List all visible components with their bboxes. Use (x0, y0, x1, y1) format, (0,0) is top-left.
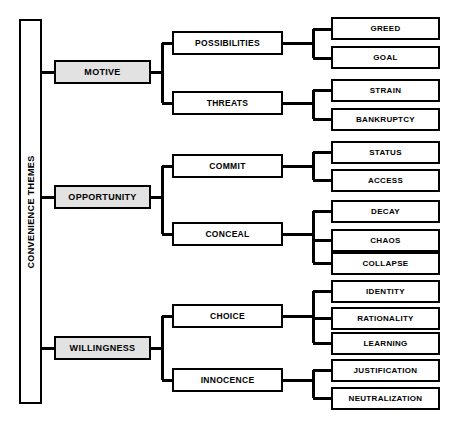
leaf-node-collapse[interactable]: COLLAPSE (331, 252, 440, 275)
leaf-node-neutralization[interactable]: NEUTRALIZATION (331, 387, 440, 410)
level1-node-motive[interactable]: MOTIVE (54, 60, 151, 84)
level1-node-label: OPPORTUNITY (68, 192, 136, 202)
level1-node-opportunity[interactable]: OPPORTUNITY (54, 185, 151, 209)
leaf-node-label: NEUTRALIZATION (349, 394, 423, 403)
leaf-node-label: DECAY (371, 207, 400, 216)
leaf-node-bankruptcy[interactable]: BANKRUPTCY (331, 108, 440, 131)
leaf-node-label: RATIONALITY (357, 314, 413, 323)
leaf-node-justification[interactable]: JUSTIFICATION (331, 359, 440, 382)
convenience-themes-diagram: CONVENIENCE THEMES MOTIVE OPPORTUNITY WI… (0, 0, 459, 425)
level2-node-label: COMMIT (209, 161, 245, 171)
leaf-node-decay[interactable]: DECAY (331, 200, 440, 223)
level2-node-choice[interactable]: CHOICE (172, 304, 283, 328)
level2-node-threats[interactable]: THREATS (172, 91, 283, 115)
leaf-node-rationality[interactable]: RATIONALITY (331, 307, 440, 330)
level2-node-possibilities[interactable]: POSSIBILITIES (172, 31, 283, 55)
leaf-node-access[interactable]: ACCESS (331, 169, 440, 192)
root-node-convenience-themes: CONVENIENCE THEMES (19, 19, 42, 404)
level2-node-conceal[interactable]: CONCEAL (172, 222, 283, 246)
level2-node-label: CHOICE (210, 311, 245, 321)
level1-node-label: WILLINGNESS (70, 343, 136, 353)
leaf-node-label: CHAOS (370, 236, 400, 245)
leaf-node-label: GOAL (373, 53, 397, 62)
level1-node-label: MOTIVE (84, 67, 120, 77)
leaf-node-goal[interactable]: GOAL (331, 46, 440, 69)
leaf-node-label: LEARNING (363, 339, 407, 348)
leaf-node-greed[interactable]: GREED (331, 17, 440, 40)
level2-node-label: POSSIBILITIES (195, 38, 260, 48)
level2-node-label: INNOCENCE (201, 375, 255, 385)
leaf-node-identity[interactable]: IDENTITY (331, 280, 440, 303)
leaf-node-label: COLLAPSE (363, 259, 409, 268)
level2-node-label: THREATS (207, 98, 249, 108)
level1-node-willingness[interactable]: WILLINGNESS (54, 336, 151, 360)
leaf-node-label: STATUS (369, 148, 402, 157)
root-node-label: CONVENIENCE THEMES (26, 155, 36, 268)
level2-node-label: CONCEAL (205, 229, 249, 239)
leaf-node-status[interactable]: STATUS (331, 141, 440, 164)
level2-node-commit[interactable]: COMMIT (172, 154, 283, 178)
level2-node-innocence[interactable]: INNOCENCE (172, 368, 283, 392)
leaf-node-label: STRAIN (370, 86, 402, 95)
leaf-node-label: ACCESS (368, 176, 403, 185)
leaf-node-label: GREED (371, 24, 401, 33)
leaf-node-chaos[interactable]: CHAOS (331, 229, 440, 252)
leaf-node-label: IDENTITY (366, 287, 405, 296)
leaf-node-label: BANKRUPTCY (356, 115, 415, 124)
leaf-node-strain[interactable]: STRAIN (331, 79, 440, 102)
leaf-node-label: JUSTIFICATION (354, 366, 418, 375)
leaf-node-learning[interactable]: LEARNING (331, 332, 440, 355)
